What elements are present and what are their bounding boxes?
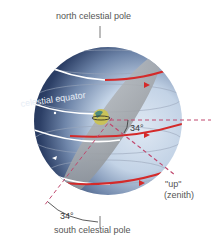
angle-label-top: 34° [130,124,144,133]
angle-label-bottom: 34° [60,212,74,221]
up-label: "up" [165,180,181,189]
south-pole-label: south celestial pole [54,226,131,235]
north-pole-label: north celestial pole [56,12,131,21]
zenith-label: (zenith) [164,191,194,200]
celestial-sphere-diagram [0,0,211,242]
